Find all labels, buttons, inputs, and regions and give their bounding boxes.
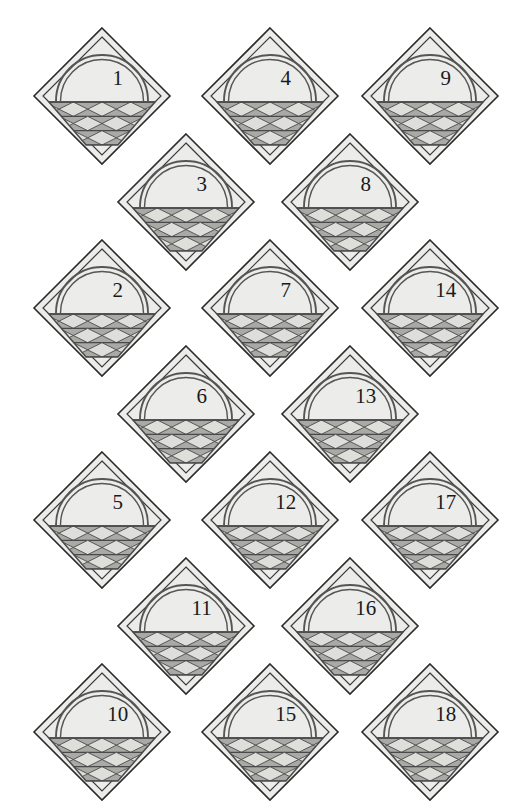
lattice-diamond [487,752,502,766]
lattice-diamond [114,222,129,236]
lattice-diamond [327,752,342,766]
lattice-diamond [30,555,59,569]
lattice-diamond [159,540,174,554]
lattice-diamond [114,646,129,660]
lattice-diamond [473,767,502,781]
lattice-diamond [278,434,293,448]
lattice-diamond [30,752,45,766]
lattice-diamond [243,434,258,448]
block-number: 8 [360,172,371,196]
lattice-diamond [159,328,174,342]
lattice-diamond [487,116,502,130]
basket-block: 15 [198,660,342,804]
lattice-diamond [278,222,293,236]
block-number: 18 [435,702,456,726]
lattice-diamond [243,222,258,236]
lattice-diamond [358,540,373,554]
lattice-diamond [159,752,174,766]
lattice-diamond [327,116,342,130]
block-number: 11 [192,596,212,620]
lattice-diamond [243,646,258,660]
lattice-diamond [407,646,422,660]
block-number: 4 [280,66,291,90]
block-number: 3 [196,172,207,196]
lattice-diamond [198,752,213,766]
lattice-diamond [198,540,213,554]
block-number: 6 [196,384,207,408]
lattice-diamond [145,767,174,781]
lattice-diamond [473,343,502,357]
block-number: 13 [355,384,376,408]
lattice-diamond [407,434,422,448]
block-number: 5 [112,490,123,514]
basket-block: 18 [358,660,502,804]
lattice-diamond [278,646,293,660]
lattice-diamond [473,555,502,569]
block-number: 2 [112,278,123,302]
quilt-block-sheet: 149382714613512171116101518 [0,0,529,807]
lattice-diamond [159,116,174,130]
lattice-diamond [30,767,59,781]
lattice-diamond [114,434,129,448]
basket-block: 10 [30,660,174,804]
block-number: 17 [435,490,456,514]
block-number: 7 [280,278,291,302]
lattice-diamond [407,222,422,236]
block-number: 15 [275,702,296,726]
block-number: 1 [112,66,123,90]
lattice-diamond [358,328,373,342]
lattice-diamond [327,328,342,342]
lattice-diamond [473,131,502,145]
lattice-diamond [30,343,59,357]
lattice-diamond [198,328,213,342]
lattice-diamond [313,767,342,781]
block-number: 12 [275,490,296,514]
lattice-diamond [487,328,502,342]
lattice-diamond [30,116,45,130]
lattice-diamond [327,540,342,554]
lattice-diamond [358,767,387,781]
lattice-diamond [30,328,45,342]
block-number: 9 [440,66,451,90]
lattice-diamond [358,116,373,130]
lattice-diamond [198,767,227,781]
block-number: 10 [107,702,128,726]
lattice-diamond [30,540,45,554]
lattice-diamond [30,131,59,145]
lattice-diamond [487,540,502,554]
lattice-diamond [358,752,373,766]
block-number: 14 [435,278,457,302]
lattice-diamond [198,116,213,130]
block-number: 16 [355,596,376,620]
